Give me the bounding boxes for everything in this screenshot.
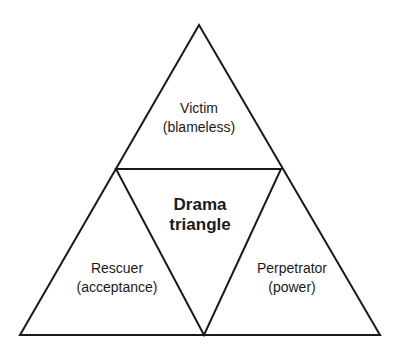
center-title-line2: triangle [169,215,230,234]
perpetrator-segment: Perpetrator (power) [257,260,327,295]
victim-label: Victim [180,100,218,116]
drama-triangle-diagram: Victim (blameless) Drama triangle Rescue… [0,0,400,360]
inner-triangle [116,169,281,335]
perpetrator-label: Perpetrator [257,260,327,276]
rescuer-descriptor: (acceptance) [77,279,158,295]
victim-descriptor: (blameless) [163,119,235,135]
diagram-svg: Victim (blameless) Drama triangle Rescue… [0,0,400,360]
rescuer-label: Rescuer [91,260,143,276]
center-segment: Drama triangle [169,195,230,234]
outer-triangle [20,25,380,335]
perpetrator-descriptor: (power) [268,279,315,295]
center-title-line1: Drama [174,195,227,214]
rescuer-segment: Rescuer (acceptance) [77,260,158,295]
victim-segment: Victim (blameless) [163,100,235,135]
